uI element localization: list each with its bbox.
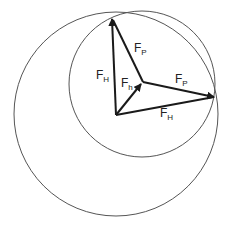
- vector-fh-up: [112, 19, 116, 115]
- small-circle: [69, 11, 215, 157]
- label-fh-bottom: FH: [160, 106, 173, 122]
- vector-force-diagram: FH FP Fh FP FH: [0, 0, 227, 227]
- label-fh-left: FH: [96, 68, 109, 84]
- label-fp-right: FP: [175, 72, 188, 88]
- label-fp-top: FP: [134, 41, 147, 57]
- label-fh-small: Fh: [121, 76, 133, 92]
